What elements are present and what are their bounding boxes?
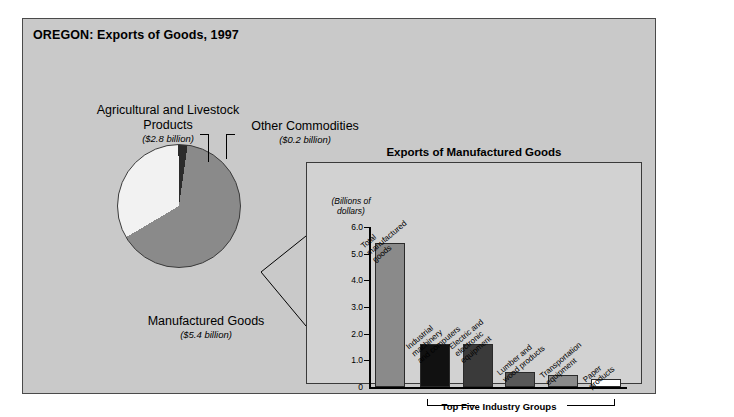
y-tick-label: 3.0: [329, 302, 363, 312]
pie-label-other-amount: ($0.2 billion): [235, 134, 375, 145]
pie-graphic: [117, 144, 241, 268]
y-tick-label: 0: [329, 382, 363, 392]
y-tick-label: 4.0: [329, 275, 363, 285]
pie-label-other-commodities: Other Commodities ($0.2 billion): [235, 119, 375, 145]
pie-label-agricultural-title: Agricultural and Livestock Products: [81, 103, 255, 133]
page-title: OREGON: Exports of Goods, 1997: [33, 28, 239, 42]
y-tick-label: 1.0: [329, 355, 363, 365]
y-tick-mark: [364, 227, 369, 228]
figure-panel: OREGON: Exports of Goods, 1997 Agricultu…: [22, 18, 656, 394]
y-tick-mark: [364, 254, 369, 255]
y-axis-tick-labels: 6.05.04.03.02.01.00: [329, 163, 363, 383]
pie-label-agricultural: Agricultural and Livestock Products ($2.…: [81, 103, 255, 144]
y-tick-mark: [364, 280, 369, 281]
industry-groups-bracket: Top Five Industry Groups: [369, 395, 629, 417]
bar-1: [375, 243, 405, 387]
plot-area: TotalmanufacturedgoodsIndustrialmachiner…: [371, 227, 627, 387]
x-axis-line: [369, 387, 627, 389]
y-tick-label: 5.0: [329, 249, 363, 259]
pie-chart: [117, 144, 241, 268]
y-tick-label: 6.0: [329, 222, 363, 232]
inset-chart-title: Exports of Manufactured Goods: [306, 146, 642, 158]
pie-label-manufactured-title: Manufactured Goods: [131, 314, 281, 329]
pie-label-agricultural-amount: ($2.8 billion): [81, 133, 255, 144]
y-tick-label: 2.0: [329, 329, 363, 339]
pie-label-manufactured: Manufactured Goods ($5.4 billion): [131, 314, 281, 340]
pie-label-other-title: Other Commodities: [235, 119, 375, 134]
y-tick-mark: [364, 334, 369, 335]
pie-label-manufactured-amount: ($5.4 billion): [131, 329, 281, 340]
y-tick-mark: [364, 307, 369, 308]
y-tick-mark: [364, 360, 369, 361]
bracket-label: Top Five Industry Groups: [369, 401, 629, 412]
inset-chart-panel: (Billions of dollars) 6.05.04.03.02.01.0…: [306, 162, 642, 384]
